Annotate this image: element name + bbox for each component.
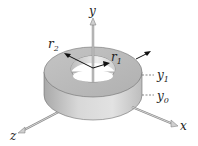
rim-normal-arrow (136, 51, 151, 59)
x-axis (132, 107, 178, 127)
r2-label: r2 (48, 37, 59, 53)
annulus-figure: y x z r2 r1 y1 y0 (0, 0, 198, 146)
y-axis-arrowhead-icon (90, 18, 96, 25)
diagram-canvas: y x z r2 r1 y1 y0 (0, 0, 198, 146)
x-axis-label: x (180, 119, 187, 133)
z-axis-arrowhead-icon (18, 127, 25, 133)
z-axis-label: z (9, 129, 17, 143)
y0-label: y0 (156, 89, 169, 105)
rim-arrowhead-icon (144, 51, 151, 56)
y1-label: y1 (156, 68, 169, 84)
y-axis-label: y (88, 4, 96, 18)
x-axis-arrowhead-icon (171, 120, 178, 127)
